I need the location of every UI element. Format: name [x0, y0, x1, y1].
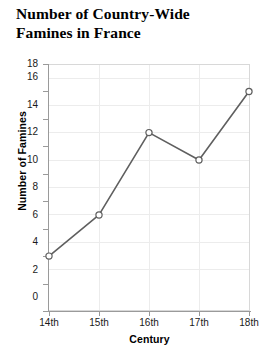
data-point-15th — [96, 212, 102, 218]
series-layer — [0, 0, 269, 356]
data-point-18th — [246, 88, 252, 94]
data-point-17th — [196, 157, 202, 163]
data-point-16th — [146, 130, 152, 136]
famines-line-chart: Number of Country-Wide Famines in France… — [0, 0, 269, 356]
series-line-famines — [49, 91, 249, 256]
data-point-14th — [46, 253, 52, 259]
